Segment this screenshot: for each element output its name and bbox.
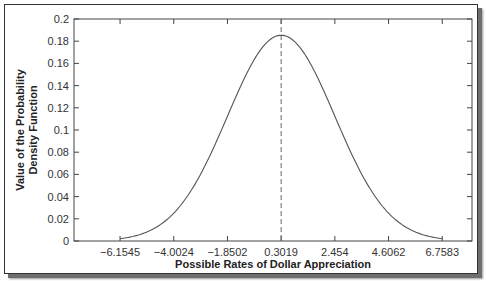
y-axis-title-line2: Density Function (27, 85, 39, 175)
y-tick-label: 0.06 (48, 168, 69, 180)
x-tick-label: −1.8502 (207, 246, 247, 258)
normal-pdf-curve (120, 35, 442, 238)
y-tick-label: 0.12 (48, 102, 69, 114)
y-tick-label: 0 (63, 235, 69, 247)
y-tick-label: 0.18 (48, 35, 69, 47)
y-tick-label: 0.14 (48, 80, 69, 92)
y-axis-title-line1: Value of the Probability (14, 68, 26, 191)
y-tick-label: 0.04 (48, 191, 69, 203)
plot-area (74, 19, 472, 241)
y-tick-label: 0.16 (48, 57, 69, 69)
x-tick-label: 2.454 (321, 246, 349, 258)
pdf-chart: 00.020.040.060.080.10.120.140.160.180.2 … (0, 0, 486, 283)
y-tick-label: 0.02 (48, 213, 69, 225)
y-tick-label: 0.08 (48, 146, 69, 158)
x-tick-label: 6.7583 (425, 246, 459, 258)
x-tick-label: 0.3019 (264, 246, 298, 258)
x-tick-label: −4.0024 (154, 246, 194, 258)
y-tick-label: 0.1 (54, 124, 69, 136)
x-axis: −6.1545−4.0024−1.85020.30192.4544.60626.… (100, 19, 459, 258)
y-tick-label: 0.2 (54, 13, 69, 25)
x-axis-title: Possible Rates of Dollar Appreciation (175, 258, 371, 270)
x-tick-label: 4.6062 (372, 246, 406, 258)
y-axis: 00.020.040.060.080.10.120.140.160.180.2 (48, 13, 472, 247)
x-tick-label: −6.1545 (100, 246, 140, 258)
